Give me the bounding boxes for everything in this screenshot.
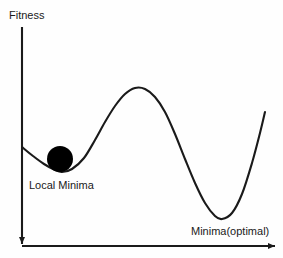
- fitness-landscape-figure: [0, 0, 283, 258]
- global-minima-label: Minima(optimal): [191, 226, 269, 237]
- y-axis-label: Fitness: [9, 10, 44, 21]
- diagram-canvas: Fitness Local Minima Minima(optimal): [0, 0, 283, 258]
- local-minima-label: Local Minima: [29, 180, 94, 191]
- ball-marker: [47, 146, 73, 172]
